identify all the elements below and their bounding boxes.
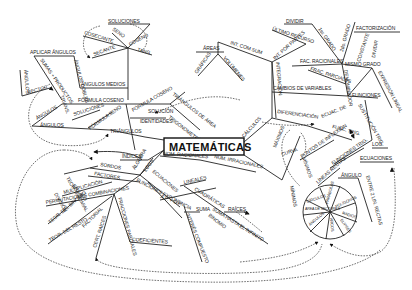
node-constante: CONSTANTE (355, 32, 370, 63)
arrow (50, 88, 53, 90)
node-sordos: SORDOS (100, 161, 123, 171)
node-expresion-lineal: EXPRESIÓN LINEAL (377, 70, 404, 114)
branch-calculos: INTEGRACIÓN DIVIDIR ÚLTIMO RECURSO INT. … (272, 18, 405, 164)
node-entre-2-lin-rectas: ENTRE 2 LIN. RECTAS (365, 175, 384, 227)
node-sumas-productos: SUMAS + PRODUCTOS (39, 57, 75, 105)
segment-area-de-sectores: ÁREA DE SECTORES (305, 207, 340, 211)
node-soluciones: SOLUCIONES (108, 18, 141, 24)
connector (145, 137, 164, 140)
node-volumenes: VOLÚMENES (222, 55, 247, 83)
segment-parabolas: PARÁBOLAS (324, 180, 335, 204)
node-dividir: DIVIDIR (286, 18, 304, 24)
node-mismo-grado: MISMO GRADO (345, 61, 381, 67)
node-coeficientes: COEFICIENTES (132, 236, 169, 245)
node-aplicar-angulos: APLICAR ÁNGULOS (30, 49, 77, 55)
node-interes-compuesto: INTERÉS COMPUESTO (185, 212, 211, 264)
node-denominador: DENOMINADOR (343, 69, 354, 107)
branch-trigonometria: SOLUCIONES SENO COSECANTE COSENO SECANTE… (20, 18, 240, 150)
node-curva-min: MÍNIMOS (289, 185, 299, 208)
dashed-arrow (262, 122, 314, 125)
node-factorizacion: FACTORIZACIÓN (356, 25, 396, 31)
node-diferenciacion: DIFERENCIACIÓN (277, 108, 319, 120)
node-angulos-medios: ÁNGULOS MEDIOS (81, 81, 126, 87)
branch-areas: ÁREAS GRÁFICAS VOLÚMENES INT. COM SUM (193, 39, 272, 82)
branch-algebra: ÍNDICES LOGS NOM. RACIONALES NÚM. IRRACI… (15, 147, 380, 282)
node-cosecante: COSECANTE (84, 29, 115, 44)
node-lineas-rectas: LÍNEAS RECTAS (315, 154, 348, 184)
connector (292, 64, 342, 66)
connector (244, 155, 282, 180)
node-minimos: MÍNIMOS (301, 156, 314, 179)
node-raices: RAÍCES (228, 206, 247, 212)
arrow (244, 212, 249, 214)
node-angulos-low: ÁNGULOS (40, 122, 65, 128)
node-maximos: MÁXIMOS (271, 124, 285, 148)
node-angulos-left: ÁNGULOS (35, 103, 59, 120)
node-segundo-grado: 2do. GRADO (338, 23, 351, 52)
connector (282, 136, 300, 180)
segment-arcos: ARCOS (329, 218, 335, 233)
node-triangulos: TRIÁNGULOS (110, 128, 142, 134)
dashed-arrow (240, 242, 318, 262)
node-solucion: SOLUCIÓN (148, 108, 174, 114)
mind-map-canvas: SOLUCIONES SENO COSECANTE COSENO SECANTE… (0, 0, 412, 290)
node-fracciones-parciales: FRACCIONES PARCIALES (117, 197, 138, 257)
node-ecuac-de: ECUAC. DE (320, 103, 347, 119)
node-suma: SUMA (196, 206, 211, 212)
node-curva: CURVA (280, 146, 298, 157)
node-log: LOG. (372, 141, 384, 147)
dashed-arrow (64, 150, 92, 160)
node-fac-racionales: FAC. RACIONALES (300, 58, 344, 64)
node-ecuaciones-right: ECUACIONES (360, 155, 393, 161)
dashed-arrow (330, 168, 395, 256)
node-tang: TANG (137, 46, 151, 55)
node-dividir-2: DIVIDIR (370, 39, 379, 58)
node-areas: ÁREAS (203, 45, 220, 51)
node-primer-grado: 1er. GRADO (317, 26, 338, 52)
node-coseno: COSENO (128, 32, 150, 47)
connector (64, 166, 98, 174)
node-funciones: FUNCIONES (352, 92, 381, 98)
node-angulo: ÁNGULO (341, 172, 362, 178)
node-cambios-de-variables: CAMBIOS DE VARIABLES (273, 85, 332, 91)
node-lineales: LINEALES (183, 174, 208, 185)
